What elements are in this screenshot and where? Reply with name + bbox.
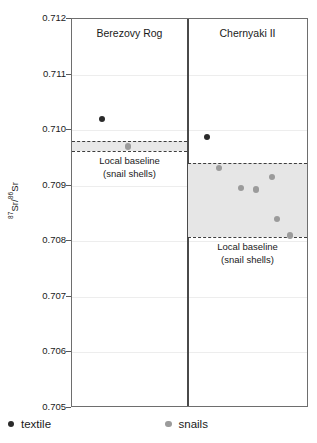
y-tick-mark [66,407,71,408]
y-tick-mark [66,185,71,186]
legend-marker-snails-icon [165,421,172,428]
y-tick-label: 0.711 [22,69,66,79]
baseline-caption-right: Local baseline (snail shells) [188,240,307,266]
data-point-snails [287,232,294,239]
data-point-snails [253,186,260,193]
panel-chernyaki-ii: Chernyaki II Local baseline (snail shell… [188,19,307,406]
y-tick-label: 0.706 [22,346,66,356]
y-tick-mark [66,351,71,352]
legend-label-textile: textile [21,418,51,430]
baseline-band-right [188,163,307,237]
baseline-caption-right-line1: Local baseline [188,240,307,253]
baseline-caption-left: Local baseline (snail shells) [72,154,187,180]
plot-area: Berezovy Rog Local baseline (snail shell… [71,18,308,407]
y-tick-label: 0.708 [22,235,66,245]
y-axis-sr: Sr [9,182,20,192]
data-point-textile [99,116,105,122]
panel-title-left: Berezovy Rog [72,27,187,39]
legend-item-textile: textile [8,418,51,430]
y-tick-mark [66,240,71,241]
panel-berezovy-rog: Berezovy Rog Local baseline (snail shell… [72,19,187,406]
y-axis-tick-labels: 0.7120.7110.7100.7090.7080.7070.7060.705 [20,0,66,443]
baseline-edge-bottom-left [72,151,187,152]
y-tick-label: 0.709 [22,180,66,190]
chart-legend: textile snails [0,412,317,443]
baseline-caption-left-line2: (snail shells) [72,167,187,180]
y-tick-mark [66,129,71,130]
y-tick-label: 0.707 [22,291,66,301]
y-tick-mark [66,74,71,75]
baseline-edge-top-left [72,141,187,142]
y-axis-title: 87Sr/86Sr [9,171,20,231]
legend-marker-textile-icon [8,421,14,427]
legend-item-snails: snails [165,418,208,430]
y-axis-superscript-86: 86 [7,192,14,199]
baseline-edge-top-right [188,163,307,164]
y-axis-superscript-87: 87 [7,212,14,219]
y-tick-label: 0.710 [22,124,66,134]
y-tick-label: 0.712 [22,13,66,23]
legend-label-snails: snails [179,418,208,430]
baseline-caption-right-line2: (snail shells) [188,253,307,266]
strontium-isotope-scatter-chart: 87Sr/86Sr 0.7120.7110.7100.7090.7080.707… [0,0,317,443]
y-tick-label: 0.705 [22,402,66,412]
data-point-snails [125,143,132,150]
data-point-textile [204,134,210,140]
y-tick-mark [66,296,71,297]
baseline-caption-left-line1: Local baseline [72,154,187,167]
y-axis-sr-slash: Sr/ [9,199,20,211]
panel-title-right: Chernyaki II [188,27,307,39]
y-tick-mark [66,18,71,19]
